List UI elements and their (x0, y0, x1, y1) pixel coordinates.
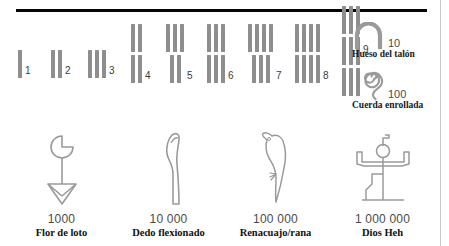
numeral-label: 2 (65, 65, 71, 76)
tally-stroke (214, 55, 218, 83)
tally-stroke (207, 24, 211, 52)
tally-stroke (131, 24, 135, 52)
stroke-row (295, 24, 320, 52)
numeral-label: 7 (276, 70, 282, 81)
stroke-row (51, 50, 62, 78)
legend-name: Cuerda enrollada (352, 100, 448, 110)
tally-stroke (302, 24, 306, 52)
large-symbol-bent-finger: 10 000 Dedo flexionado (115, 126, 222, 238)
stroke-row (88, 50, 106, 78)
numeral-label: 3 (109, 65, 115, 76)
legend-glyph-row: 10 (352, 22, 448, 50)
large-symbol-name: Flor de loto (36, 227, 88, 238)
stroke-stack (51, 50, 62, 78)
tally-stroke (102, 50, 106, 78)
large-symbol-value: 10 000 (150, 212, 188, 226)
stroke-stack (295, 24, 320, 83)
numeral-label: 6 (228, 70, 234, 81)
stroke-row (18, 50, 22, 78)
stroke-stack (18, 50, 22, 78)
tally-stroke (342, 68, 346, 96)
stroke-row (131, 55, 142, 83)
tally-stroke (18, 50, 22, 78)
coiled-rope-icon (360, 67, 386, 101)
numeral-4: 4 (131, 24, 151, 83)
tally-stroke (88, 50, 92, 78)
stroke-stack (207, 24, 225, 83)
large-symbol-value: 100 000 (253, 212, 298, 226)
stroke-row (248, 24, 273, 52)
heh-god-icon (352, 130, 414, 210)
large-symbol-value: 1000 (48, 212, 76, 226)
large-symbol-name: Dios Heh (362, 227, 403, 238)
numeral-5: 5 (166, 24, 193, 83)
tally-stroke (309, 24, 313, 52)
large-symbol-lotus-flower: 1000 Flor de loto (8, 126, 115, 238)
legend-glyph-row: 100 (360, 67, 448, 101)
tally-stroke (138, 24, 142, 52)
lotus-flower-icon (40, 130, 84, 210)
numeral-1: 1 (18, 50, 31, 78)
tally-stroke (95, 50, 99, 78)
stroke-row (166, 24, 184, 52)
tally-stroke (262, 24, 266, 52)
tally-stroke (173, 24, 177, 52)
numeral-label: 5 (187, 70, 193, 81)
stroke-row (131, 24, 142, 52)
tally-stroke (221, 24, 225, 52)
heel-bone-icon (352, 22, 386, 50)
large-symbols-row: 1000 Flor de loto 10 000 Dedo flexionado (8, 126, 438, 238)
tally-stroke (214, 24, 218, 52)
stroke-stack (131, 24, 142, 83)
numeral-label: 1 (25, 65, 31, 76)
numeral-label: 4 (145, 70, 151, 81)
tally-stroke (255, 24, 259, 52)
large-symbol-glyph (352, 130, 414, 210)
numeral-3: 3 (88, 50, 115, 78)
egyptian-numerals-figure: 1 2 3 (0, 0, 449, 246)
numeral-7: 7 (248, 24, 282, 83)
tally-stroke (177, 55, 181, 83)
stroke-stack (88, 50, 106, 78)
tadpole-frog-icon (254, 130, 298, 210)
stroke-stack (248, 24, 273, 83)
legend-right-group: 10 Hueso del talón 100 Cuerda enrollada (352, 22, 448, 110)
tally-stroke (170, 55, 174, 83)
large-symbol-name: Renacuajo/rana (240, 227, 312, 238)
tally-stroke (138, 55, 142, 83)
tally-stroke (221, 55, 225, 83)
tally-stroke (248, 24, 252, 52)
large-symbol-glyph (40, 130, 84, 210)
legend-value: 10 (388, 37, 400, 49)
stroke-row (207, 55, 225, 83)
tally-stroke (269, 24, 273, 52)
tally-stroke (266, 55, 270, 83)
numeral-6: 6 (207, 24, 234, 83)
large-symbol-value: 1 000 000 (355, 212, 410, 226)
bent-finger-icon (149, 130, 189, 210)
stroke-row (207, 24, 225, 52)
legend-entry-heel-bone: 10 Hueso del talón (352, 22, 448, 59)
large-symbol-glyph (254, 130, 298, 210)
tally-stroke (295, 55, 299, 83)
legend-entry-coiled-rope: 100 Cuerda enrollada (352, 67, 448, 110)
large-symbol-name: Dedo flexionado (132, 227, 205, 238)
numeral-label: 8 (323, 70, 329, 81)
tally-stroke (302, 55, 306, 83)
tally-stroke (166, 24, 170, 52)
tally-stroke (259, 55, 263, 83)
stroke-row (295, 55, 320, 83)
stroke-row (170, 55, 181, 83)
tally-stroke (58, 50, 62, 78)
large-symbol-glyph (149, 130, 189, 210)
numeral-2: 2 (51, 50, 71, 78)
numerals-group: 1 2 3 (18, 24, 358, 112)
numeral-8: 8 (295, 24, 329, 83)
large-symbol-heh-god: 1 000 000 Dios Heh (329, 126, 436, 238)
tally-stroke (342, 37, 346, 65)
stroke-row (252, 55, 270, 83)
large-symbol-tadpole-frog: 100 000 Renacuajo/rana (222, 126, 329, 238)
tally-stroke (180, 24, 184, 52)
tally-stroke (316, 55, 320, 83)
tally-stroke (309, 55, 313, 83)
